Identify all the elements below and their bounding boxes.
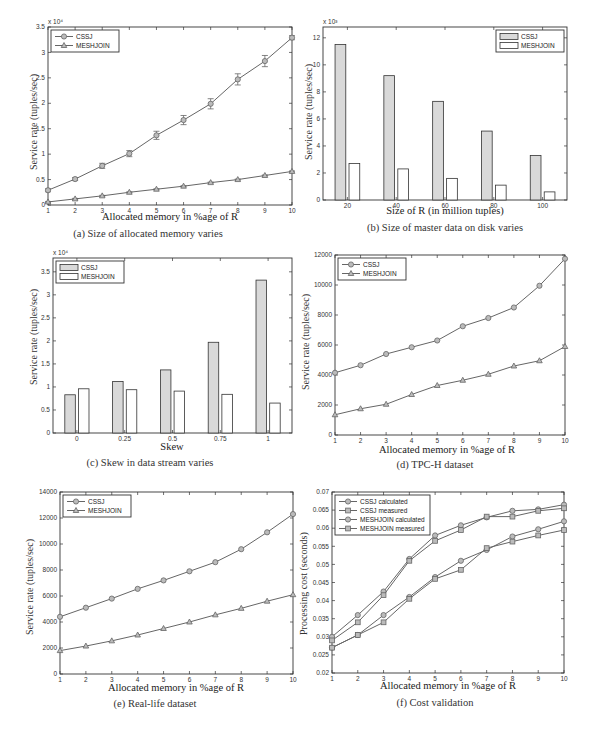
data-point-marker [536,508,541,513]
data-point-marker [562,506,567,511]
legend-label: CSSJ [81,264,98,271]
bar [126,390,137,433]
data-point-marker [384,351,389,356]
bar [495,185,506,200]
bar [530,155,541,200]
data-point-marker [460,324,465,329]
chart-b-ylabel: Service rate (tuples/sec) [303,64,314,160]
legend: CSSJMESHJOIN [51,30,119,52]
y-tick-label: 6000 [318,341,333,348]
y-tick-label: 0.04 [316,597,329,604]
x-tick-label: 2 [73,207,77,214]
data-point-marker [154,133,159,138]
data-point-marker [289,35,294,40]
bar [447,178,458,200]
legend-label: CSSJ [76,33,93,40]
series-meshjoin [78,389,280,433]
x-tick-label: 8 [512,437,516,444]
data-point-marker [345,517,350,522]
data-point-marker [537,283,542,288]
y-tick-label: 3 [46,291,50,298]
data-point-marker [348,262,353,267]
x-tick-label: 9 [536,675,540,682]
bar [160,370,171,433]
x-tick-label: 1 [58,676,62,683]
chart-d-xlabel: Allocated memory in %age of R [379,444,515,455]
data-point-marker [562,344,568,349]
series-meshjoin [349,164,555,200]
chart-b-caption: (b) Size of master data on disk varies [367,222,523,233]
data-point-marker [61,34,66,39]
plot-area [48,27,292,205]
y-tick-label: 3.5 [36,23,45,30]
y-tick-label: 12000 [39,514,57,521]
data-point-marker [355,620,360,625]
legend-label: CSSJ calculated [360,498,408,505]
bar [78,389,89,433]
legend: CSSJ calculatedCSSJ measuredMESHJOIN cal… [335,495,430,535]
y-tick-label: 2000 [318,401,333,408]
data-point-marker [161,578,166,583]
y-tick-label: 8000 [318,311,333,318]
x-tick-label: 1 [266,435,270,442]
y-tick-label: 0.06 [316,524,329,531]
data-point-marker [109,596,114,601]
legend-label: MESHJOIN calculated [360,516,425,523]
series-meshjoin [57,592,296,653]
bar [433,101,444,200]
series-cssj [65,280,267,433]
data-point-marker [265,530,270,535]
bar [222,394,233,433]
chart-panel-e: 0200040006000800010000120001400012345678… [0,490,295,730]
data-point-marker [409,345,414,350]
plot-area [60,492,293,674]
chart-f-caption: (f) Cost validation [397,697,474,708]
y-tick-label: 2 [41,99,45,106]
y-tick-label: 8000 [43,566,58,573]
data-point-marker [355,633,360,638]
data-point-marker [346,508,351,513]
data-point-marker [536,527,541,532]
x-tick-label: 1 [333,437,337,444]
chart-b-xlabel: Size of R (in million tuples) [386,205,504,216]
plot-area [335,255,565,435]
x-tick-label: 100 [537,202,548,209]
data-point-marker [262,58,267,63]
y-tick-label: 4000 [318,371,333,378]
x-tick-label: 3 [384,437,388,444]
data-point-marker [510,508,515,513]
legend-label: CSSJ [363,261,380,268]
y-tick-label: 8 [316,88,320,95]
data-point-marker [511,305,516,310]
data-point-marker [484,546,489,551]
x-tick-label: 2 [359,437,363,444]
data-point-marker [330,645,335,650]
legend-label: MESHJOIN [88,507,122,514]
data-point-marker [433,576,438,581]
x-tick-label: 9 [265,676,269,683]
y-tick-label: 0 [46,429,50,436]
data-point-marker [458,558,463,563]
y-axis-multiplier: x 10⁴ [48,18,63,25]
y-tick-label: 12 [313,34,321,41]
legend: CSSJMESHJOIN [338,258,406,280]
x-tick-label: 2 [84,676,88,683]
data-point-marker [458,567,463,572]
chart-c-caption: (c) Skew in data stream varies [87,457,214,468]
data-point-marker [561,519,566,524]
x-tick-label: 1 [46,207,50,214]
data-point-marker [381,612,386,617]
chart-a-plot: 00.511.522.533.512345678910x 10⁴CSSJMESH… [0,0,295,245]
series-cssj [335,45,541,200]
data-point-marker [208,101,213,106]
y-tick-label: 0.025 [313,651,330,658]
data-point-marker [239,547,244,552]
chart-f-ylabel: Processing cost (seconds) [298,532,309,635]
bar [544,192,555,200]
chart-e-caption: (e) Real-life dataset [114,698,197,709]
y-tick-label: 0.045 [313,579,330,586]
data-point-marker [458,528,463,533]
data-point-marker [381,593,386,598]
data-point-marker [355,612,360,617]
legend-label: CSSJ [521,33,538,40]
